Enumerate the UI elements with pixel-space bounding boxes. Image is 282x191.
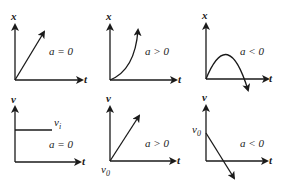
x-axis-label: t (178, 73, 182, 85)
y-axis-label: x (105, 10, 112, 22)
panel-v-t-accelerating: v t v0 a > 0 (101, 92, 181, 178)
y-axis-label: x (201, 9, 208, 21)
x-axis-label: t (177, 154, 181, 166)
condition-label: a = 0 (49, 45, 73, 57)
velocity-line (110, 116, 139, 161)
x-axis-label: t (269, 72, 273, 84)
origin-label: v0 (101, 163, 110, 178)
condition-label: a < 0 (240, 137, 264, 149)
panel-v-t-decelerating: v t v0 a < 0 (192, 91, 273, 178)
condition-label: a > 0 (145, 137, 169, 149)
y-axis-label: v (11, 93, 16, 105)
y-axis-label: v (202, 91, 207, 103)
y-axis-label: v (106, 92, 111, 104)
intercept-label: v0 (192, 123, 201, 138)
position-curve (110, 30, 138, 80)
x-axis-label: t (84, 73, 88, 85)
condition-label: a < 0 (240, 45, 264, 57)
position-line (15, 32, 44, 80)
kinematics-graphs-diagram: x t a = 0 x t a > 0 x t a < 0 v t vi a =… (0, 0, 282, 191)
x-axis-label: t (269, 154, 273, 166)
condition-label: a = 0 (49, 138, 73, 150)
position-parabola (206, 54, 248, 90)
panel-v-t-uniform: v t vi a = 0 (11, 93, 86, 167)
line-label: vi (54, 116, 61, 131)
panel-x-t-accelerating: x t a > 0 (105, 10, 182, 85)
condition-label: a > 0 (145, 45, 169, 57)
panel-x-t-uniform: x t a = 0 (10, 10, 88, 85)
x-axis-label: t (82, 155, 86, 167)
panel-x-t-decelerating: x t a < 0 (201, 9, 273, 90)
y-axis-label: x (10, 10, 17, 22)
velocity-line (206, 133, 234, 178)
